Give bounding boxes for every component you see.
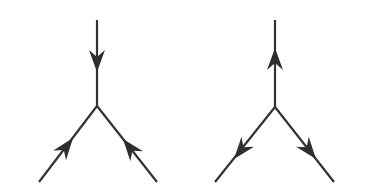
right-vertex-group [215,20,334,182]
arrow-up-right-icon [53,133,79,160]
right-lower-left-leg [215,107,275,182]
arrow-down-right-icon [296,137,322,164]
arrow-up-left-icon [117,134,143,161]
right-lower-right-leg [275,107,334,182]
left-vertex-group [39,20,157,182]
vertex-diagram [0,0,367,192]
